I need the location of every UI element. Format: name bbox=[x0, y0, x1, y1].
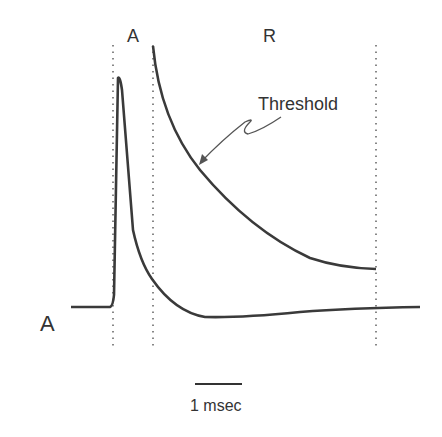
relative-period-label: R bbox=[263, 26, 276, 46]
refractory-period-diagram: A R Threshold A 1 msec bbox=[0, 0, 442, 437]
threshold-curve bbox=[153, 46, 376, 269]
threshold-pointer-arrow bbox=[201, 117, 281, 162]
scale-bar-label: 1 msec bbox=[190, 397, 242, 414]
threshold-label: Threshold bbox=[258, 94, 338, 114]
action-potential-trace bbox=[71, 78, 420, 317]
panel-label: A bbox=[40, 311, 55, 336]
absolute-period-label: A bbox=[127, 26, 139, 46]
